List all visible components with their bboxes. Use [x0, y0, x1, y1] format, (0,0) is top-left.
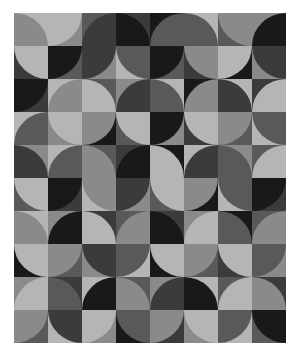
- quarter-circle-bl: [218, 79, 252, 112]
- pattern-tile: [48, 112, 82, 145]
- quarter-circle-tl: [218, 310, 252, 343]
- pattern-tile: [48, 277, 82, 310]
- quarter-circle-br: [184, 145, 218, 178]
- pattern-tile: [252, 277, 286, 310]
- pattern-tile: [116, 277, 150, 310]
- quarter-circle-bl: [82, 79, 116, 112]
- pattern-tile: [14, 310, 48, 343]
- pattern-tile: [252, 79, 286, 112]
- quarter-circle-tr: [252, 112, 286, 145]
- pattern-tile: [48, 145, 82, 178]
- quarter-circle-br: [150, 13, 184, 46]
- quarter-circle-tl: [48, 46, 82, 79]
- quarter-circle-tr: [184, 112, 218, 145]
- pattern-tile: [252, 211, 286, 244]
- pattern-tile: [218, 277, 252, 310]
- quarter-circle-tl: [14, 310, 48, 343]
- pattern-tile: [218, 46, 252, 79]
- quarter-circle-tr: [116, 46, 150, 79]
- quarter-circle-tl: [48, 244, 82, 277]
- quarter-circle-tl: [48, 13, 82, 46]
- pattern-tile: [150, 211, 184, 244]
- pattern-tile: [218, 79, 252, 112]
- quarter-circle-br: [48, 79, 82, 112]
- quarter-circle-bl: [218, 145, 252, 178]
- pattern-tile: [184, 277, 218, 310]
- pattern-tile: [48, 13, 82, 46]
- quarter-circle-tl: [82, 46, 116, 79]
- pattern-tile: [116, 13, 150, 46]
- quarter-circle-tr: [150, 178, 184, 211]
- quarter-circle-tl: [150, 46, 184, 79]
- pattern-tile: [116, 79, 150, 112]
- quarter-circle-tl: [116, 178, 150, 211]
- quarter-circle-bl: [150, 211, 184, 244]
- quarter-circle-br: [184, 79, 218, 112]
- quarter-circle-br: [184, 211, 218, 244]
- pattern-tile: [150, 13, 184, 46]
- quarter-circle-br: [252, 13, 286, 46]
- pattern-tile: [150, 277, 184, 310]
- pattern-tile: [48, 310, 82, 343]
- quarter-circle-br: [252, 145, 286, 178]
- pattern-tile: [184, 145, 218, 178]
- pattern-tile: [252, 145, 286, 178]
- pattern-tile: [14, 79, 48, 112]
- pattern-tile: [82, 46, 116, 79]
- pattern-tile: [184, 244, 218, 277]
- quarter-circle-bl: [252, 277, 286, 310]
- quarter-circle-tr: [82, 244, 116, 277]
- pattern-tile: [184, 79, 218, 112]
- quarter-circle-tl: [82, 310, 116, 343]
- pattern-tile: [252, 310, 286, 343]
- quarter-circle-tl: [116, 244, 150, 277]
- quarter-circle-tr: [14, 244, 48, 277]
- pattern-tile: [82, 145, 116, 178]
- quarter-circle-tl: [150, 112, 184, 145]
- pattern-tile: [82, 277, 116, 310]
- quarter-circle-tr: [48, 310, 82, 343]
- pattern-tile: [48, 79, 82, 112]
- quarter-circle-br: [150, 277, 184, 310]
- pattern-tile: [82, 79, 116, 112]
- pattern-tile: [116, 145, 150, 178]
- pattern-tile: [82, 211, 116, 244]
- pattern-tile: [48, 46, 82, 79]
- quarter-circle-tl: [184, 244, 218, 277]
- pattern-tile: [218, 310, 252, 343]
- pattern-tile: [82, 178, 116, 211]
- pattern-tile: [48, 211, 82, 244]
- pattern-tile: [116, 211, 150, 244]
- pattern-tile: [184, 310, 218, 343]
- quarter-circle-br: [48, 211, 82, 244]
- quarter-circle-bl: [150, 145, 184, 178]
- quarter-circle-bl: [184, 277, 218, 310]
- pattern-tile: [150, 145, 184, 178]
- quarter-circle-br: [14, 277, 48, 310]
- quarter-circle-tl: [184, 178, 218, 211]
- quarter-circle-br: [82, 277, 116, 310]
- quarter-circle-tr: [184, 310, 218, 343]
- pattern-tile: [218, 112, 252, 145]
- pattern-tile: [252, 244, 286, 277]
- quarter-circle-tr: [116, 310, 150, 343]
- pattern-tile: [150, 178, 184, 211]
- quarter-circle-br: [48, 145, 82, 178]
- pattern-tile: [82, 310, 116, 343]
- quarter-circle-br: [218, 277, 252, 310]
- quarter-circle-tl: [218, 112, 252, 145]
- pattern-tile: [150, 310, 184, 343]
- quarter-circle-bl: [218, 211, 252, 244]
- pattern-tile: [48, 244, 82, 277]
- pattern-tile: [252, 112, 286, 145]
- quarter-circle-bl: [82, 211, 116, 244]
- quarter-circle-tr: [14, 46, 48, 79]
- pattern-tile: [252, 13, 286, 46]
- quarter-circle-bl: [116, 13, 150, 46]
- pattern-tile: [184, 112, 218, 145]
- quarter-circle-tr: [184, 46, 218, 79]
- quarter-circle-br: [252, 79, 286, 112]
- pattern-tile: [150, 244, 184, 277]
- pattern-tile: [218, 244, 252, 277]
- quarter-circle-tr: [218, 244, 252, 277]
